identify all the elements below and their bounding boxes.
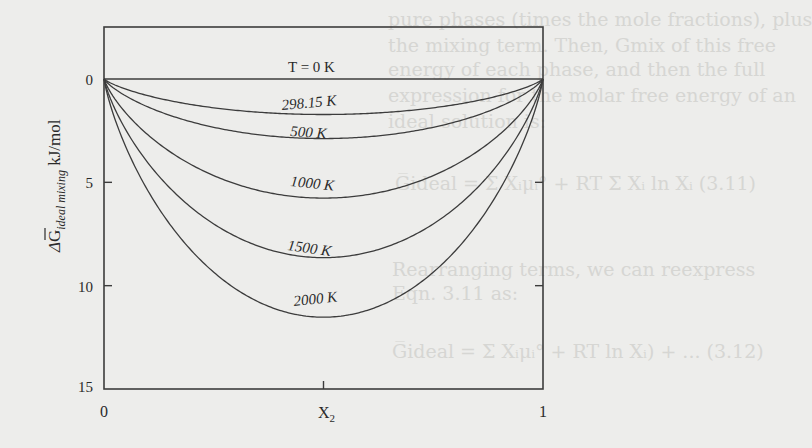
curve-label: 298.15 K	[281, 92, 338, 113]
curves	[104, 79, 543, 317]
y-tick-label: 10	[78, 279, 93, 295]
curve-label: 2000 K	[293, 288, 339, 309]
y-axis-label-text: ΔGideal mixing kJ/mol	[45, 119, 68, 253]
x-tick-label: 0	[100, 403, 108, 420]
x-axis-label: X2	[318, 404, 335, 424]
y-tick-label: 5	[86, 175, 94, 191]
curve-label: 500 K	[290, 123, 328, 142]
curve-label: T = 0 K	[288, 59, 335, 75]
plot-frame	[104, 27, 543, 389]
plot-border	[104, 27, 543, 389]
x-tick-label: 1	[539, 403, 547, 420]
y-tick-label: 15	[78, 379, 93, 395]
curve-label: 1000 K	[290, 173, 336, 194]
y-axis-label: ΔGideal mixing kJ/mol	[45, 119, 68, 253]
curve-labels: T = 0 K298.15 K500 K1000 K1500 K2000 K	[281, 59, 339, 309]
y-tick-label: 0	[86, 72, 94, 88]
